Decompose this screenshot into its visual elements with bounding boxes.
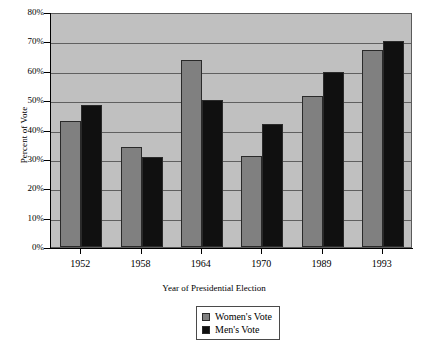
y-axis-label: 70% [4,37,44,46]
x-axis-tick [322,249,323,254]
y-axis-label: 30% [4,155,44,164]
y-axis-label-wrap: 70% [0,37,44,46]
x-axis-tick [201,249,202,254]
bar [121,147,142,247]
y-axis-label: 40% [4,126,44,135]
x-axis-tick [80,249,81,254]
bar [383,41,404,247]
y-axis-label-wrap: 40% [0,126,44,135]
legend-label: Women's Vote [215,311,272,322]
bar [81,105,102,247]
y-axis-label: 10% [4,214,44,223]
bar [181,60,202,247]
y-axis-label-wrap: 0% [0,243,44,252]
bar [142,157,163,247]
y-axis-label: 50% [4,96,44,105]
legend-item: Men's Vote [202,323,272,336]
x-axis-tick [261,249,262,254]
plot-area [50,13,412,248]
y-axis-line [50,13,51,249]
legend-item: Women's Vote [202,310,272,323]
x-axis-title: Year of Presidential Election [0,283,428,293]
bars-layer [51,14,411,247]
y-axis-label-wrap: 10% [0,214,44,223]
legend-label: Men's Vote [215,324,260,335]
bar [202,100,223,247]
bar-chart: Percent of Vote 0%10%20%30%40%50%60%70%8… [0,0,428,345]
bar [362,50,383,247]
x-axis-tick [141,249,142,254]
y-axis-label: 60% [4,67,44,76]
y-axis-label: 20% [4,184,44,193]
legend-swatch-men-icon [202,326,210,334]
x-axis-label: 1993 [347,258,417,269]
bar [241,156,262,247]
legend-swatch-women-icon [202,313,210,321]
y-axis-label-wrap: 20% [0,184,44,193]
bar [262,124,283,247]
bar [323,72,344,247]
y-axis-label-wrap: 30% [0,155,44,164]
legend: Women's Vote Men's Vote [196,306,280,340]
bar [302,96,323,247]
bar [60,121,81,247]
y-axis-label-wrap: 60% [0,67,44,76]
x-axis-tick [382,249,383,254]
x-axis-line [50,248,413,249]
y-axis-label-wrap: 80% [0,8,44,17]
y-axis-label: 0% [4,243,44,252]
y-axis-label: 80% [4,8,44,17]
y-axis-label-wrap: 50% [0,96,44,105]
